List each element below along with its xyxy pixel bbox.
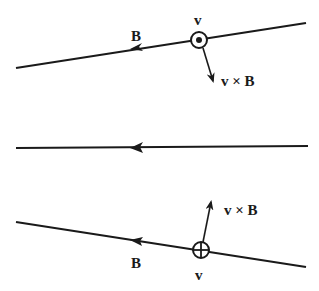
middle-field-line — [16, 142, 308, 153]
bottom-field-label: B — [131, 255, 141, 271]
top-force-arrow-icon — [203, 48, 213, 81]
top-force-label: v × B — [221, 73, 255, 89]
velocity-out-of-page-icon — [191, 32, 207, 48]
field-lines-diagram: B v v × B B v v × B — [0, 0, 319, 291]
bottom-force-label: v × B — [224, 202, 258, 218]
top-field-label: B — [131, 28, 141, 44]
top-field-line — [16, 23, 306, 68]
velocity-into-page-icon — [193, 242, 209, 258]
bottom-force-arrow-icon — [203, 202, 211, 242]
bottom-velocity-label: v — [195, 267, 203, 283]
diagram: B v v × B B v v × B — [0, 0, 319, 291]
top-velocity-label: v — [194, 12, 202, 28]
bottom-field-line — [16, 222, 306, 267]
